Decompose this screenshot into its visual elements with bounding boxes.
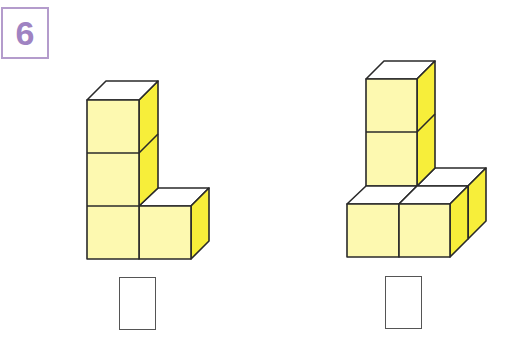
- cube-figures: [0, 0, 522, 339]
- figure-b-cubes: [347, 61, 486, 257]
- answer-box-a[interactable]: [119, 277, 156, 330]
- figure-a-cubes: [87, 81, 209, 259]
- answer-box-b[interactable]: [385, 276, 422, 329]
